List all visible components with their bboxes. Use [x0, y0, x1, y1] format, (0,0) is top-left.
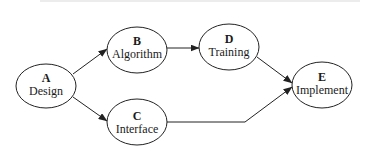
edge-a-to-c [73, 97, 107, 121]
node-a-letter: A [42, 71, 51, 85]
node-c-interface: C Interface [107, 99, 167, 145]
node-e-label: Implement [296, 83, 349, 97]
node-b-label: Algorithm [112, 47, 163, 61]
node-b-algorithm: B Algorithm [107, 27, 167, 73]
node-c-letter: C [133, 109, 142, 123]
flow-diagram: A Design B Algorithm C Interface D Train… [0, 0, 375, 159]
node-a-label: Design [29, 84, 63, 98]
node-d-letter: D [225, 32, 234, 46]
node-d-label: Training [209, 45, 250, 59]
node-b-letter: B [133, 34, 141, 48]
edge-d-to-e [257, 57, 292, 83]
node-e-implement: E Implement [292, 62, 352, 108]
edge-c-to-e [167, 87, 292, 122]
edge-a-to-b [73, 49, 107, 74]
node-e-letter: E [318, 70, 326, 84]
node-c-label: Interface [116, 122, 159, 136]
node-d-training: D Training [199, 24, 259, 70]
node-a-design: A Design [16, 64, 76, 108]
